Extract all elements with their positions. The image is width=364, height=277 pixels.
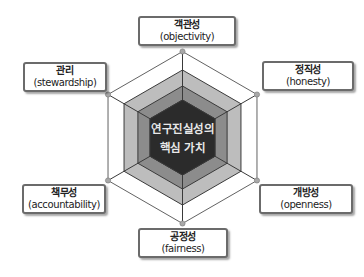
- center-title: 연구진실성의 핵심 가치: [132, 120, 233, 158]
- value-label-ko: 정직성: [295, 64, 321, 76]
- vertex-dot: [180, 221, 185, 226]
- value-label-ko: 책무성: [51, 187, 77, 199]
- vertex-dot: [105, 178, 110, 183]
- value-box-honesty: 정직성 (honesty): [262, 61, 354, 91]
- value-label-en: (fairness): [161, 243, 204, 255]
- value-box-objectivity: 객관성 (objectivity): [138, 16, 236, 46]
- vertex-dot: [105, 92, 110, 97]
- value-label-en: (honesty): [286, 76, 330, 88]
- value-box-stewardship: 관리 (stewardship): [23, 62, 107, 92]
- value-box-openness: 개방성 (openness): [259, 184, 353, 214]
- center-title-line-2: 핵심 가치: [132, 139, 233, 158]
- value-label-en: (stewardship): [33, 77, 96, 89]
- value-label-en: (objectivity): [160, 31, 215, 43]
- value-box-accountability: 책무성 (accountability): [22, 184, 106, 214]
- value-label-ko: 개방성: [293, 187, 319, 199]
- vertex-dot: [254, 178, 259, 183]
- value-label-ko: 공정성: [170, 231, 196, 243]
- value-label-en: (openness): [280, 199, 332, 211]
- vertex-dot: [254, 92, 259, 97]
- vertex-dot: [180, 49, 185, 54]
- value-label-ko: 관리: [56, 65, 73, 77]
- center-title-line-1: 연구진실성의: [132, 120, 233, 139]
- value-label-en: (accountability): [28, 199, 100, 211]
- value-box-fairness: 공정성 (fairness): [138, 228, 228, 258]
- value-label-ko: 객관성: [174, 19, 200, 31]
